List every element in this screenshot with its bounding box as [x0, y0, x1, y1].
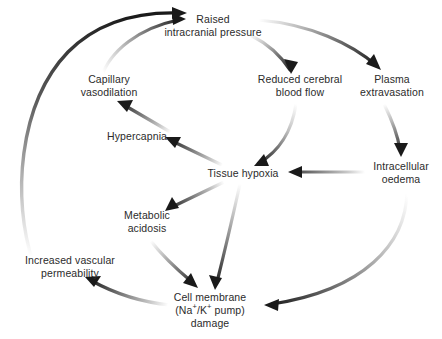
- cell-membrane-pump-suffix: pump): [212, 304, 245, 316]
- pathophysiology-diagram: Raised intracranial pressure Reduced cer…: [0, 0, 442, 339]
- node-tissue-hypoxia[interactable]: Tissue hypoxia: [207, 167, 278, 180]
- node-metabolic-acidosis[interactable]: Metabolic acidosis: [124, 209, 170, 235]
- edge-cell-membrane-damage-to-increased-vascular-permeability: [85, 276, 170, 305]
- edge-plasma-extravasation-to-intracellular-oedema: [384, 104, 408, 157]
- node-plasma-extravasation[interactable]: Plasma extravasation: [360, 73, 424, 99]
- edge-icp-to-reduced-cerebral-blood-flow: [252, 36, 298, 74]
- edge-metabolic-acidosis-to-cell-membrane-damage: [150, 240, 198, 288]
- node-increased-vascular-permeability[interactable]: Increased vascular permeability: [25, 254, 115, 280]
- edge-tissue-hypoxia-to-cell-membrane-damage: [209, 184, 240, 290]
- cell-membrane-line-2: (Na+/K+ pump): [174, 304, 247, 317]
- edge-tissue-hypoxia-to-hypercapnia: [165, 137, 222, 165]
- node-cell-membrane-damage[interactable]: Cell membrane (Na+/K+ pump) damage: [174, 291, 247, 330]
- edge-icp-to-plasma-extravasation: [258, 20, 381, 70]
- edge-intracellular-oedema-to-cell-membrane-damage: [264, 192, 407, 311]
- edge-tissue-hypoxia-to-metabolic-acidosis: [165, 182, 224, 211]
- node-hypercapnia[interactable]: Hypercapnia: [107, 130, 167, 143]
- edge-reduced-cerebral-blood-flow-to-tissue-hypoxia: [254, 104, 296, 166]
- node-intracellular-oedema[interactable]: Intracellular oedema: [373, 160, 429, 186]
- node-reduced-cerebral-blood-flow[interactable]: Reduced cerebral blood flow: [258, 73, 342, 99]
- cell-membrane-line-3: damage: [174, 317, 247, 330]
- edge-hypercapnia-to-capillary-vasodilation: [117, 100, 172, 133]
- edge-intracellular-oedema-to-tissue-hypoxia: [288, 166, 369, 178]
- node-capillary-vasodilation[interactable]: Capillary vasodilation: [81, 73, 138, 99]
- cell-membrane-na-prefix: (Na: [175, 304, 192, 316]
- cell-membrane-k-mid: /K: [197, 304, 207, 316]
- node-raised-intracranial-pressure[interactable]: Raised intracranial pressure: [164, 13, 261, 39]
